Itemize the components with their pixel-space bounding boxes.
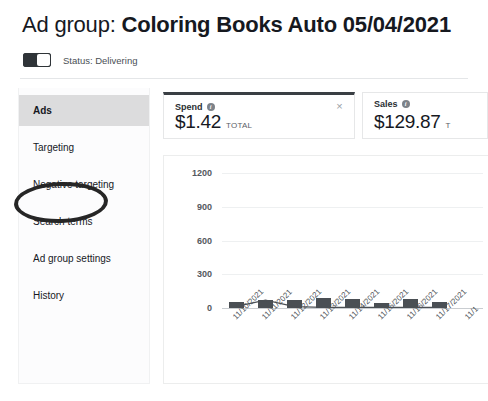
info-icon[interactable]: i [207,103,215,111]
sidebar-item-ad-group-settings[interactable]: Ad group settings [19,243,149,274]
status-label: Status: Delivering [63,55,137,66]
page-title-name: Coloring Books Auto 05/04/2021 [122,12,451,37]
info-icon[interactable]: i [402,100,410,108]
sidebar-item-label: Negative targeting [33,179,114,190]
page-title-prefix: Ad group: [22,12,116,37]
metric-card-header: Sales i [374,99,410,109]
metric-card-spend[interactable]: Spend i × $1.42 TOTAL [163,92,355,139]
metric-card-sales[interactable]: Sales i $129.87 T [362,92,488,139]
metric-card-unit: T [446,121,451,130]
sidebar-item-label: History [33,290,64,301]
metric-card-value-row: $1.42 TOTAL [175,111,252,133]
chart-panel: 0300600900120011/10/202111/11/202111/12/… [163,155,488,384]
status-toggle[interactable] [23,53,51,67]
sidebar-item-label: Ads [33,105,52,116]
sidebar-item-label: Targeting [33,142,74,153]
chart-line-series [164,156,488,384]
metric-card-title: Sales [374,99,398,109]
header-divider [20,78,468,79]
metric-card-value-row: $129.87 T [374,111,451,133]
sidebar-item-label: Ad group settings [33,253,111,264]
page-header: Ad group: Coloring Books Auto 05/04/2021… [0,0,488,78]
sidebar-item-negative-targeting[interactable]: Negative targeting [19,169,149,200]
sidebar: Ads Targeting Negative targeting Search … [18,88,150,384]
metric-card-value: $1.42 [175,111,221,133]
sidebar-top-spacer [19,88,149,95]
sidebar-item-ads[interactable]: Ads [19,95,149,126]
chart-plot-area: 0300600900120011/10/202111/11/202111/12/… [164,156,488,384]
page-title: Ad group: Coloring Books Auto 05/04/2021 [22,12,451,38]
sidebar-item-history[interactable]: History [19,280,149,311]
sidebar-item-targeting[interactable]: Targeting [19,132,149,163]
metric-card-unit: TOTAL [226,121,252,130]
close-icon[interactable]: × [334,101,345,112]
metric-card-value: $129.87 [374,111,441,133]
status-toggle-knob [37,54,50,66]
status-row: Status: Delivering [23,52,137,68]
sidebar-item-label: Search terms [33,216,92,227]
sidebar-item-search-terms[interactable]: Search terms [19,206,149,237]
